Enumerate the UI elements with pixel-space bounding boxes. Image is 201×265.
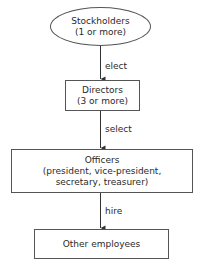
node-stockholders: Stockholders (1 or more) <box>50 7 151 46</box>
edge-label-select: select <box>105 124 132 134</box>
node-other-employees: Other employees <box>34 229 169 259</box>
directors-title: Directors <box>82 85 123 96</box>
other-employees-title: Other employees <box>63 239 141 250</box>
officers-subtitle-line2: secretary, treasurer) <box>56 177 149 188</box>
org-chart-diagram: Stockholders (1 or more) elect Directors… <box>0 0 201 265</box>
node-officers: Officers (president, vice-president, sec… <box>11 149 193 193</box>
officers-subtitle-line1: (president, vice-president, <box>43 166 162 177</box>
edge-label-hire: hire <box>105 206 122 216</box>
directors-subtitle: (3 or more) <box>77 96 128 107</box>
stockholders-subtitle: (1 or more) <box>75 27 126 38</box>
node-directors: Directors (3 or more) <box>65 80 140 111</box>
edge-label-elect: elect <box>105 61 127 71</box>
stockholders-title: Stockholders <box>71 16 129 27</box>
officers-title: Officers <box>85 155 120 166</box>
